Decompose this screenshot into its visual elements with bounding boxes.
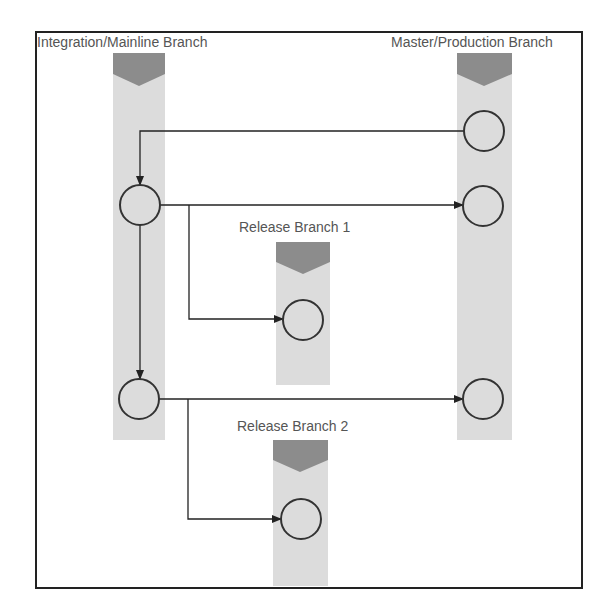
- node-integration-2: [119, 379, 159, 419]
- branch-diagram: [0, 0, 606, 613]
- edge-master-to-integration: [140, 131, 464, 185]
- edge-integration-to-release-2: [188, 399, 281, 519]
- node-release-2: [281, 499, 321, 539]
- node-master-2: [463, 186, 503, 226]
- node-release-1: [283, 300, 323, 340]
- node-master-3: [463, 379, 503, 419]
- node-integration-1: [120, 185, 160, 225]
- edge-integration-to-release-1: [189, 205, 283, 319]
- node-master-1: [464, 111, 504, 151]
